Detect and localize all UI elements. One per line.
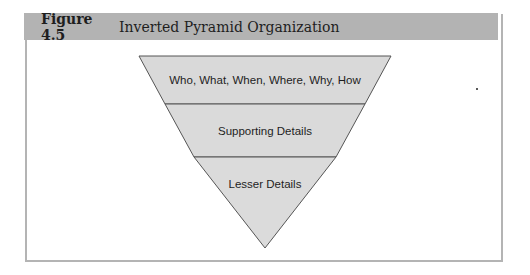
pyramid-segment-bottom	[194, 157, 336, 248]
stray-mark	[476, 88, 478, 90]
segment-label-middle: Supporting Details	[218, 125, 312, 137]
segment-label-top: Who, What, When, Where, Why, How	[169, 74, 361, 86]
inverted-pyramid-diagram: Who, What, When, Where, Why, How Support…	[0, 0, 530, 275]
segment-label-bottom: Lesser Details	[229, 178, 302, 190]
